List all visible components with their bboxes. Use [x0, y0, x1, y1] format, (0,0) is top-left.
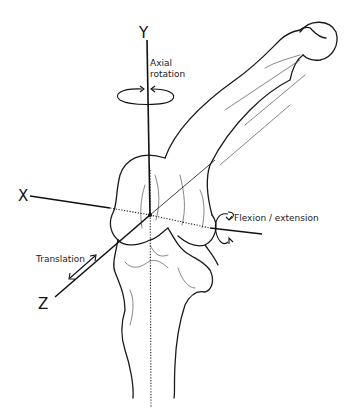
x-axis-label: X [18, 187, 28, 205]
axial-rotation-label-line1: Axial [150, 58, 172, 68]
translation-label: Translation [35, 254, 85, 264]
z-axis-line-back [150, 160, 215, 215]
x-axis-dotted-segment [110, 208, 150, 215]
x-axis-dotted-extension [150, 215, 210, 228]
axial-rotation-arrow-icon [117, 86, 173, 105]
y-axis-label: Y [138, 24, 149, 42]
x-axis-line-left [30, 196, 110, 208]
joint-center-point [148, 213, 152, 217]
z-axis-label: Z [38, 295, 48, 313]
tibia [114, 228, 218, 398]
x-axis-line-right [210, 228, 262, 234]
axial-rotation-label-line2: rotation [150, 69, 185, 79]
flexion-extension-label: Flexion / extension [234, 213, 319, 223]
flexion-extension-arrow-icon [216, 212, 234, 244]
knee-axes-diagram: Y X Z Axial rotation Flexion / extension… [0, 0, 345, 416]
